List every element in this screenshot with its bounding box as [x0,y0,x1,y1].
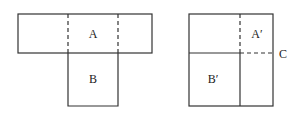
label-a-prime: A′ [251,27,263,41]
label-c: C [279,47,287,61]
label-b: B [89,72,97,86]
diagram-canvas: A B A′ B′ C [0,0,302,114]
label-b-prime: B′ [208,72,219,86]
label-a: A [89,27,98,41]
left-figure [18,14,152,106]
left-top-strip [18,14,152,53]
